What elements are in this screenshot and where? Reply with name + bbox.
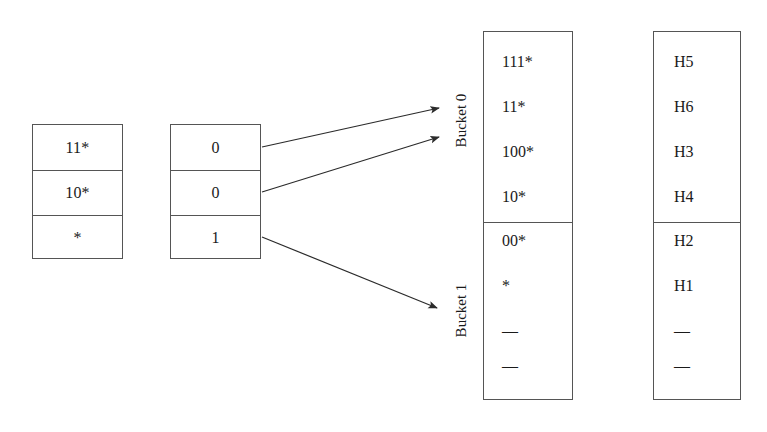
arrow-dir0-to-bucket0 (262, 108, 439, 147)
diagram-canvas: 11* 10* * 0 0 1 Bucket (0, 0, 767, 432)
hash-top-entry-2-label: H3 (674, 143, 694, 160)
hash-top-entry-3-label: H4 (674, 188, 694, 205)
hash-top-entry-1: H6 (674, 98, 694, 116)
hash-bottom-entry-2: — (674, 322, 690, 340)
prefix-table: 11* 10* * (32, 124, 123, 259)
bucket1-entry-0: 00* (502, 232, 526, 250)
bucket-0-label: Bucket 0 (453, 81, 470, 161)
bucket-1-label-text: Bucket 1 (453, 284, 469, 338)
bucket1-entry-2: — (502, 322, 518, 340)
bucket0-entry-2: 100* (502, 143, 534, 161)
bucket1-entry-2-label: — (502, 322, 518, 339)
bucket0-entry-1: 11* (502, 98, 525, 116)
bucket0-entry-2-label: 100* (502, 143, 534, 160)
directory-table-cell-2-label: 1 (211, 229, 219, 247)
hash-bottom-entry-1-label: H1 (674, 277, 694, 294)
bucket1-entry-0-label: 00* (502, 232, 526, 249)
bucket-0-label-text: Bucket 0 (453, 94, 469, 148)
directory-table-cell-1: 0 (171, 170, 260, 215)
bucket-1-label: Bucket 1 (453, 271, 470, 351)
hash-bottom-entry-3-label: — (674, 357, 690, 374)
bucket1-entry-3-label: — (502, 357, 518, 374)
bucket0-entry-0: 111* (502, 53, 533, 71)
bucket1-entry-1: * (502, 277, 510, 295)
prefix-table-cell-2: * (33, 215, 122, 260)
hash-bottom-entry-1: H1 (674, 277, 694, 295)
arrow-dir1-to-bucket0 (262, 137, 439, 192)
hash-top-entry-2: H3 (674, 143, 694, 161)
directory-table-cell-0: 0 (171, 125, 260, 170)
directory-table-cell-1-label: 0 (211, 184, 219, 202)
hash-top-entry-3: H4 (674, 188, 694, 206)
hash-column-divider (654, 222, 740, 223)
hash-bottom-entry-0: H2 (674, 232, 694, 250)
prefix-table-cell-2-label: * (73, 229, 81, 247)
hash-top-entry-0-label: H5 (674, 53, 694, 70)
hash-bottom-entry-3: — (674, 357, 690, 375)
bucket1-entry-3: — (502, 357, 518, 375)
prefix-table-cell-0-label: 11* (65, 139, 89, 157)
bucket-column-divider (484, 222, 572, 223)
hash-bottom-entry-2-label: — (674, 322, 690, 339)
bucket0-entry-3-label: 10* (502, 188, 526, 205)
prefix-table-cell-1: 10* (33, 170, 122, 215)
hash-column: H5 H6 H3 H4 H2 H1 — — (653, 31, 741, 400)
directory-table: 0 0 1 (170, 124, 261, 259)
directory-table-cell-2: 1 (171, 215, 260, 260)
hash-top-entry-0: H5 (674, 53, 694, 71)
bucket0-entry-0-label: 111* (502, 53, 533, 70)
bucket-column: 111* 11* 100* 10* 00* * — — (483, 31, 573, 400)
bucket0-entry-1-label: 11* (502, 98, 525, 115)
prefix-table-cell-0: 11* (33, 125, 122, 170)
prefix-table-cell-1-label: 10* (65, 184, 90, 202)
bucket0-entry-3: 10* (502, 188, 526, 206)
directory-table-cell-0-label: 0 (211, 139, 219, 157)
hash-bottom-entry-0-label: H2 (674, 232, 694, 249)
arrow-dir2-to-bucket1 (262, 237, 437, 308)
bucket1-entry-1-label: * (502, 277, 510, 294)
hash-top-entry-1-label: H6 (674, 98, 694, 115)
